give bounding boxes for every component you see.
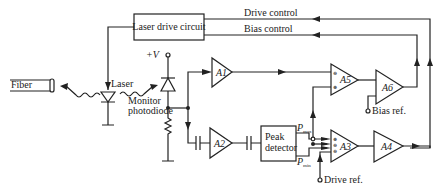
laser-label: Laser — [111, 78, 134, 89]
laser-drive-label: Laser drive circuit — [132, 21, 206, 32]
svg-text:⊖: ⊖ — [333, 71, 337, 76]
fiber-label: Fiber — [11, 79, 33, 90]
svg-text:⊕: ⊕ — [333, 85, 337, 90]
peak-label-2: detector — [265, 142, 298, 153]
a6-label: A6 — [381, 82, 393, 93]
a5-label: A5 — [339, 74, 351, 85]
vplus-label: +V — [146, 49, 161, 60]
bias-control-label: Bias control — [244, 23, 293, 34]
amplifier-a1: A1 — [212, 58, 232, 87]
bias-ref-label: Bias ref. — [372, 105, 406, 116]
a3-label: A3 — [339, 141, 351, 152]
wire-peak-to-a5 — [313, 87, 331, 137]
a1-label: A1 — [215, 67, 227, 78]
laser-drive-circuit-block: Laser drive circuit — [132, 14, 206, 40]
peak-detector-block: Peak detector — [261, 126, 298, 161]
drive-control-label: Drive control — [244, 7, 298, 18]
light-to-fiber — [66, 86, 100, 97]
laser-transmitter-diagram: Laser drive circuit Drive control Bias c… — [0, 0, 445, 193]
a2-label: A2 — [213, 138, 225, 149]
wire-to-a1 — [188, 72, 208, 108]
amplifier-a3: ⊕ ⊖ ⊖ A3 — [331, 130, 358, 162]
peak-label-1: Peak — [265, 131, 284, 142]
drive-ref-label: Drive ref. — [324, 174, 363, 185]
pmin-sub: min — [303, 163, 311, 168]
monitor-photodiode: +V Monitor photodiode — [128, 49, 190, 161]
amplifier-a4: A4 — [374, 131, 403, 162]
a4-label: A4 — [380, 141, 392, 152]
drive-control-line: Drive control — [204, 7, 433, 148]
svg-text:⊖: ⊖ — [333, 143, 337, 148]
fiber: Fiber — [10, 79, 54, 92]
amplifier-a2: A2 — [210, 128, 232, 158]
amplifier-a6: A6 — [376, 70, 403, 104]
svg-text:⊖: ⊖ — [333, 149, 337, 154]
pmax-sub: max — [303, 129, 312, 134]
svg-text:⊕: ⊕ — [333, 137, 337, 142]
amplifier-a5: ⊖ ⊕ A5 — [331, 64, 358, 95]
